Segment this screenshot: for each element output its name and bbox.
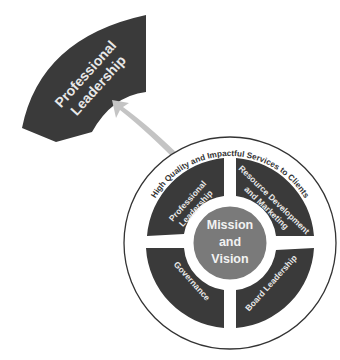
center-line3: Vision	[211, 252, 248, 266]
center-line1: Mission	[207, 218, 254, 232]
diagram-canvas: Professional Leadership High Quality and…	[0, 0, 340, 360]
center-line2: and	[219, 235, 241, 249]
